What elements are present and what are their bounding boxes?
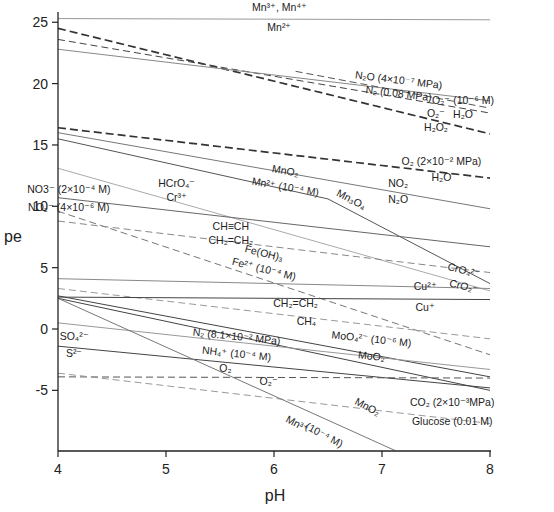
- x-tick-label: 4: [54, 461, 62, 477]
- x-ticks: 45678: [54, 451, 494, 477]
- line-label: MoO₄²⁻ (10⁻⁶ M): [331, 328, 412, 348]
- series-line: [58, 198, 490, 247]
- line-label: O₂⁻: [259, 375, 277, 387]
- series-line: [58, 323, 490, 370]
- y-ticks: -50510152025: [32, 14, 58, 398]
- y-tick-label: 10: [32, 198, 48, 214]
- line-label: Mn₃O₄: [335, 186, 368, 211]
- y-axis-title: pe: [4, 228, 22, 245]
- line-label: S²⁻: [66, 347, 83, 359]
- x-tick-label: 8: [486, 461, 494, 477]
- y-tick-label: 0: [40, 321, 48, 337]
- line-label: MnO₂: [353, 395, 382, 418]
- line-label: CH₄: [297, 315, 316, 327]
- line-label: CH≡CH: [213, 220, 249, 232]
- line-label: CO₂ (2×10⁻³MPa): [410, 396, 494, 408]
- line-label: O₂ (2×10⁻² MPa): [401, 155, 481, 167]
- line-label: O₂⁻: [427, 107, 445, 119]
- line-label: CrO₂⁻: [448, 276, 479, 295]
- y-tick-label: 15: [32, 137, 48, 153]
- line-label: MnO₂: [271, 162, 300, 178]
- line-label: NO3⁻ (2×10⁻⁴ M): [27, 183, 110, 195]
- series-line: [58, 19, 490, 20]
- series-line: [58, 298, 395, 450]
- line-label: H₂O: [453, 108, 473, 120]
- line-label: Cu⁺: [415, 301, 434, 313]
- line-label: Mn³⁺, Mn⁴⁺: [252, 1, 307, 13]
- line-label: SO₄²⁻: [60, 330, 89, 342]
- line-label: Cr³⁺: [167, 191, 188, 203]
- y-tick-label: 25: [32, 14, 48, 30]
- x-tick-label: 6: [270, 461, 278, 477]
- line-label: H₂O₂: [424, 121, 448, 133]
- line-label: HCrO₄⁻: [158, 177, 195, 189]
- line-label: CH₂=CH₂: [273, 297, 318, 309]
- line-label: Cu²⁺: [414, 280, 437, 292]
- line-label: Fe²⁺ (10⁻⁴ M): [231, 255, 297, 282]
- y-tick-label: 5: [40, 260, 48, 276]
- line-label: H₂O: [431, 171, 451, 183]
- line-label: O₂: [219, 362, 231, 374]
- line-label: Mn²⁺ (10⁻⁴ M): [251, 175, 320, 199]
- line-label: N₂O: [388, 193, 408, 205]
- y-tick-label: 20: [32, 76, 48, 92]
- line-label: NO₂: [388, 177, 408, 189]
- line-label: O₂⁻ (10⁻⁶ M): [432, 94, 494, 106]
- line-label: (10⁻⁴ M): [304, 420, 346, 450]
- line-label: Mn²⁺: [267, 21, 291, 33]
- x-tick-label: 7: [378, 461, 386, 477]
- line-label: Glucose (0.01 M): [412, 415, 493, 427]
- x-tick-label: 5: [162, 461, 170, 477]
- line-label: MoO₂: [358, 348, 386, 363]
- y-tick-label: -5: [36, 382, 49, 398]
- x-axis-title: pH: [265, 487, 285, 504]
- pe-ph-chart: Mn³⁺, Mn⁴⁺Mn²⁺N₂O (4×10⁻⁷ MPa)N₂ (0.08 M…: [0, 0, 554, 512]
- line-label: NH₄⁺ (10⁻⁴ M): [202, 344, 272, 363]
